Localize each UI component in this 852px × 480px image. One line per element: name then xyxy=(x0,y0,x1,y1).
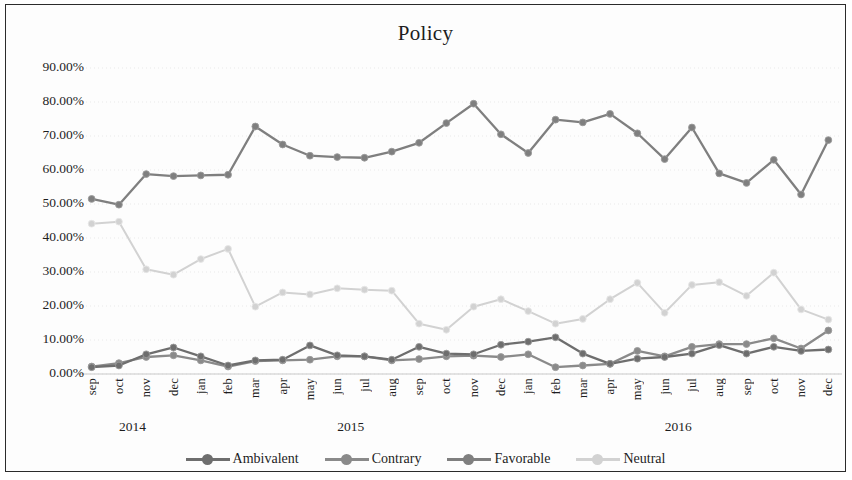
x-tick-label: aug xyxy=(385,378,400,397)
y-tick-label: 30.00% xyxy=(20,263,84,279)
x-tick-label: dec xyxy=(167,378,182,396)
x-tick-label: apr xyxy=(276,378,291,395)
x-tick-label: feb xyxy=(221,378,236,395)
x-tick-label: jun xyxy=(330,378,345,395)
x-tick-label: mar xyxy=(248,378,263,398)
year-label: 2016 xyxy=(508,419,848,435)
y-tick-label: 70.00% xyxy=(20,127,84,143)
x-tick-label: nov xyxy=(467,378,482,397)
y-tick-label: 80.00% xyxy=(20,93,84,109)
x-tick-label: nov xyxy=(139,378,154,397)
x-tick-label: mar xyxy=(576,378,591,398)
legend-item-ambivalent[interactable]: Ambivalent xyxy=(186,451,299,467)
y-tick-label: 40.00% xyxy=(20,229,84,245)
x-tick-label: aug xyxy=(712,378,727,397)
y-tick-label: 0.00% xyxy=(20,365,84,381)
legend-item-neutral[interactable]: Neutral xyxy=(576,451,665,467)
plot-canvas xyxy=(6,5,847,473)
x-tick-label: nov xyxy=(794,378,809,397)
x-tick-label: oct xyxy=(439,378,454,394)
year-label: 2015 xyxy=(181,419,521,435)
y-tick-label: 10.00% xyxy=(20,331,84,347)
x-tick-label: jul xyxy=(685,378,700,392)
legend-item-favorable[interactable]: Favorable xyxy=(447,451,550,467)
legend-label: Contrary xyxy=(372,451,422,467)
x-tick-label: sep xyxy=(740,378,755,395)
y-tick-label: 90.00% xyxy=(20,59,84,75)
x-tick-label: sep xyxy=(85,378,100,395)
y-tick-label: 50.00% xyxy=(20,195,84,211)
x-tick-label: jan xyxy=(521,378,536,394)
x-tick-label: dec xyxy=(821,378,836,396)
y-tick-label: 20.00% xyxy=(20,297,84,313)
chart-frame: Policy 90.00%80.00%70.00%60.00%50.00%40.… xyxy=(5,4,846,472)
x-tick-label: jun xyxy=(658,378,673,395)
legend-marker-neutral-icon xyxy=(576,454,620,465)
series-contrary xyxy=(88,327,832,371)
series-neutral xyxy=(88,218,832,333)
x-tick-label: may xyxy=(630,378,645,400)
year-label: 2014 xyxy=(72,419,194,435)
x-tick-label: oct xyxy=(112,378,127,394)
legend-label: Favorable xyxy=(494,451,550,467)
x-tick-label: jan xyxy=(194,378,209,394)
x-tick-label: apr xyxy=(603,378,618,395)
x-tick-label: dec xyxy=(494,378,509,396)
legend-label: Neutral xyxy=(623,451,665,467)
x-tick-label: may xyxy=(303,378,318,400)
legend-marker-contrary-icon xyxy=(325,454,369,465)
chart-area: Policy 90.00%80.00%70.00%60.00%50.00%40.… xyxy=(6,5,845,471)
x-tick-label: sep xyxy=(412,378,427,395)
y-tick-label: 60.00% xyxy=(20,161,84,177)
series-ambivalent xyxy=(88,334,832,371)
legend-item-contrary[interactable]: Contrary xyxy=(325,451,422,467)
series-favorable xyxy=(88,100,832,208)
legend-marker-favorable-icon xyxy=(447,454,491,465)
chart-legend: AmbivalentContraryFavorableNeutral xyxy=(6,451,845,467)
legend-label: Ambivalent xyxy=(233,451,299,467)
x-tick-label: feb xyxy=(549,378,564,395)
x-tick-label: oct xyxy=(767,378,782,394)
legend-marker-ambivalent-icon xyxy=(186,454,230,465)
x-tick-label: jul xyxy=(358,378,373,392)
